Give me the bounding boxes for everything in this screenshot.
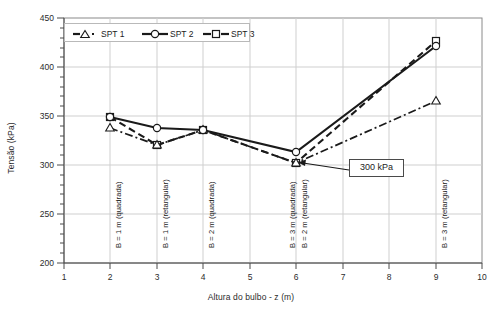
y-tick-label-400: 400 bbox=[26, 62, 54, 72]
x-tick-label-3: 3 bbox=[145, 272, 169, 282]
x-axis bbox=[64, 263, 482, 269]
x-axis-title: Altura do bulbo - z (m) bbox=[0, 292, 502, 302]
chart-legend: SPT 1 SPT 2 SPT 3 bbox=[64, 23, 250, 42]
y-tick-label-350: 350 bbox=[26, 111, 54, 121]
y-axis bbox=[57, 18, 64, 263]
legend-marker-circle-icon bbox=[142, 28, 168, 40]
annotation-b2-quadrada: B = 2 m (quadrada) bbox=[207, 181, 216, 248]
x-tick-label-5: 5 bbox=[238, 272, 262, 282]
callout-300-kpa: 300 kPa bbox=[349, 159, 404, 177]
legend-marker-triangle-icon bbox=[73, 28, 99, 40]
annotation-b3-retangular: B = 3 m (retangular) bbox=[440, 179, 449, 248]
x-tick-label-2: 2 bbox=[98, 272, 122, 282]
legend-item-spt-3: SPT 3 bbox=[203, 27, 254, 40]
legend-item-spt-2: SPT 2 bbox=[142, 27, 193, 40]
legend-item-spt-1: SPT 1 bbox=[73, 27, 124, 40]
x-tick-label-6: 6 bbox=[284, 272, 308, 282]
x-tick-label-4: 4 bbox=[191, 272, 215, 282]
y-tick-label-450: 450 bbox=[26, 13, 54, 23]
annotation-b3-quadrada: B = 3 m (quadrada) bbox=[288, 181, 297, 248]
x-tick-label-8: 8 bbox=[377, 272, 401, 282]
annotation-b1-quadrada: B = 1 m (quadrada) bbox=[114, 181, 123, 248]
chart-plot-area bbox=[0, 0, 502, 314]
annotation-b1-retangular: B = 1 m (retangular) bbox=[161, 179, 170, 248]
y-tick-label-250: 250 bbox=[26, 209, 54, 219]
x-tick-label-1: 1 bbox=[52, 272, 76, 282]
y-tick-label-200: 200 bbox=[26, 258, 54, 268]
x-tick-label-9: 9 bbox=[424, 272, 448, 282]
legend-label-spt-1: SPT 1 bbox=[101, 29, 124, 39]
x-tick-label-7: 7 bbox=[331, 272, 355, 282]
chart-container: 450 400 350 300 250 200 1 2 3 4 5 6 7 8 … bbox=[0, 0, 502, 314]
y-tick-label-300: 300 bbox=[26, 160, 54, 170]
legend-marker-square-icon bbox=[203, 28, 229, 40]
annotation-b2-retangular: B = 2 m (retangular) bbox=[300, 179, 309, 248]
legend-label-spt-3: SPT 3 bbox=[231, 29, 254, 39]
legend-label-spt-2: SPT 2 bbox=[170, 29, 193, 39]
y-axis-title: Tensão (kPa) bbox=[6, 98, 16, 198]
x-tick-label-10: 10 bbox=[470, 272, 494, 282]
